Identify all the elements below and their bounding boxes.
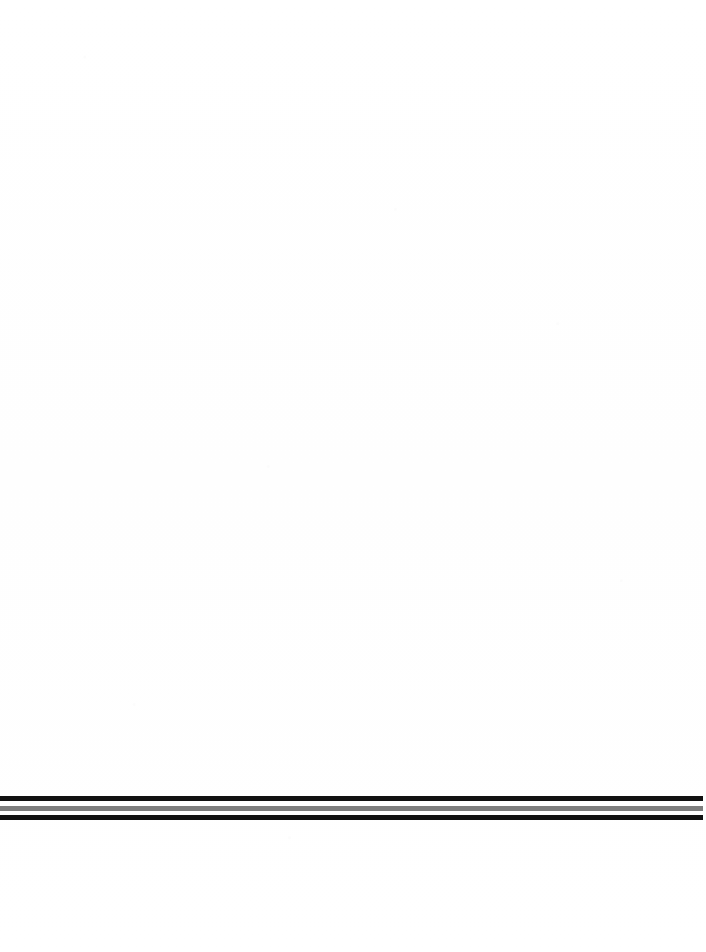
footer-blank-area xyxy=(0,822,706,952)
page-content-area xyxy=(0,0,706,796)
scanned-page xyxy=(0,0,706,952)
horizontal-rule-band xyxy=(0,795,703,821)
rule-bottom-black xyxy=(0,815,703,820)
